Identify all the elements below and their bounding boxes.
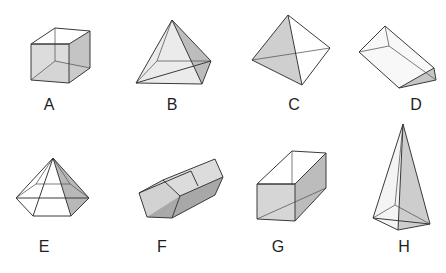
label-a: A bbox=[44, 97, 55, 113]
shape-e-hexagonal-pyramid bbox=[16, 158, 89, 216]
shape-g-rectangular-prism bbox=[257, 151, 326, 221]
shape-a-cube bbox=[31, 28, 90, 83]
label-g: G bbox=[272, 239, 284, 255]
label-e: E bbox=[39, 239, 50, 255]
label-h: H bbox=[398, 239, 410, 255]
solids-figure bbox=[0, 0, 446, 273]
shape-h-tall-pyramid bbox=[373, 124, 430, 230]
shape-b-square-pyramid bbox=[136, 20, 211, 84]
shape-d-triangular-prism bbox=[359, 26, 436, 88]
shape-c-tetrahedron bbox=[252, 15, 330, 85]
label-b: B bbox=[167, 97, 178, 113]
label-f: F bbox=[157, 239, 167, 255]
shape-f-pentagonal-prism bbox=[139, 159, 223, 218]
label-d: D bbox=[410, 97, 422, 113]
label-c: C bbox=[288, 97, 300, 113]
